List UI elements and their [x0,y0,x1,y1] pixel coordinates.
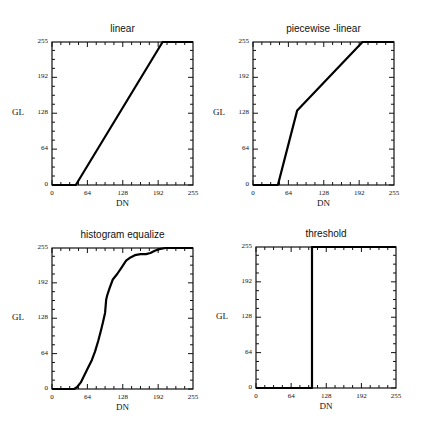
x-tick-label: 192 [351,392,371,400]
x-tick-label: 255 [386,392,406,400]
y-tick-label: 64 [232,348,252,356]
plot-frame [256,247,396,388]
y-tick-label: 255 [232,242,252,250]
x-axis-label: DN [311,401,341,411]
plot-area [0,0,421,436]
x-tick-label: 128 [316,392,336,400]
y-tick-label: 128 [232,312,252,320]
y-tick-label: 192 [232,277,252,285]
transfer-curve [256,247,396,388]
y-axis-label: GL [216,311,228,321]
y-tick-label: 0 [232,383,252,391]
x-tick-label: 0 [246,392,266,400]
x-tick-label: 64 [281,392,301,400]
